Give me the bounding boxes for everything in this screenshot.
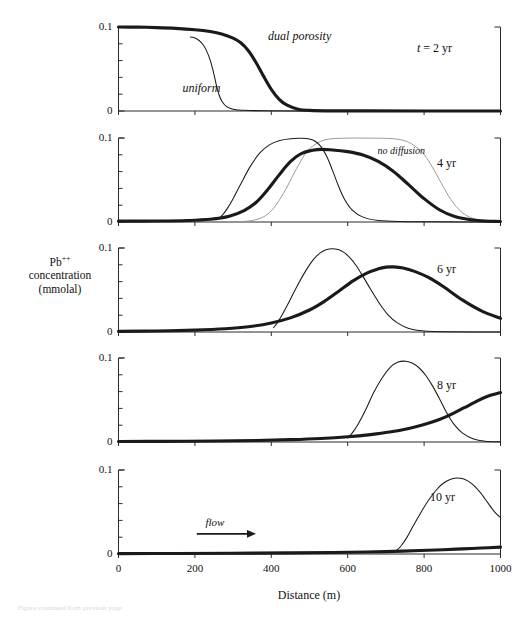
panel-10yr-ytick-label: 0 [87,547,113,559]
x-tick-label: 400 [248,562,294,574]
x-tick-label: 1000 [478,562,518,574]
panel-8yr-ytick-label: 0 [87,435,113,447]
panel-8yr [119,358,501,446]
panel-10yr-curve-uniform [397,478,501,551]
panel-2yr-curve-uniform [190,37,500,111]
panel-6yr-time-label: 6 yr [437,262,456,277]
panel-2yr-annotation-dual-porosity: dual porosity [268,29,331,44]
panel-4yr-annotation-no-diffusion: no diffusion [378,145,426,156]
y-axis-title-line2: concentration [12,269,108,283]
panel-8yr-time-label: 8 yr [437,378,456,393]
panel-4yr-ytick-label: 0.1 [87,131,113,143]
panel-8yr-ytick-label: 0.1 [87,351,113,363]
y-axis-title-line3: (mmolal) [12,283,108,297]
x-tick-label: 0 [96,562,142,574]
caption-remnant: Figure continued from previous page [18,604,348,612]
x-axis-title: Distance (m) [118,588,500,603]
panel-4yr-ytick-label: 0 [87,215,113,227]
panel-2yr-ytick-label: 0 [87,104,113,116]
panel-2yr-time-label: t = 2 yr [417,41,452,56]
panel-6yr-ytick-label: 0 [87,325,113,337]
x-tick-label: 600 [325,562,371,574]
panel-4yr-time-label: 4 yr [437,156,456,171]
panel-6yr-curve-uniform [274,249,501,332]
panel-6yr-frame [119,248,501,332]
panel-10yr-curve-dual-porosity [119,547,501,554]
panel-4yr-curve-no-diffusion [245,138,501,222]
panel-10yr-time-label: 10 yr [430,490,455,505]
figure-container: Pb++ concentration (mmolal) Distance (m)… [0,0,518,617]
x-tick-label: 800 [401,562,447,574]
flow-arrow-head [247,530,256,538]
panel-6yr-ytick-label: 0.1 [87,241,113,253]
panel-10yr-ytick-label: 0.1 [87,463,113,475]
panel-10yr-frame [119,470,501,554]
panel-8yr-curve-dual-porosity [119,393,501,442]
y-axis-title-superscript: ++ [62,254,71,263]
panel-10yr [119,470,501,558]
panel-2yr-annotation-uniform: uniform [182,81,220,96]
y-axis-title-line1: Pb++ [12,252,108,269]
plot-canvas [0,0,518,617]
panel-8yr-frame [119,358,501,442]
panel-2yr-ytick-label: 0.1 [87,20,113,32]
panel-4yr [119,138,501,226]
x-tick-label: 200 [172,562,218,574]
y-axis-title: Pb++ concentration (mmolal) [12,252,108,296]
panel-10yr-annotation-flow: flow [206,516,225,528]
